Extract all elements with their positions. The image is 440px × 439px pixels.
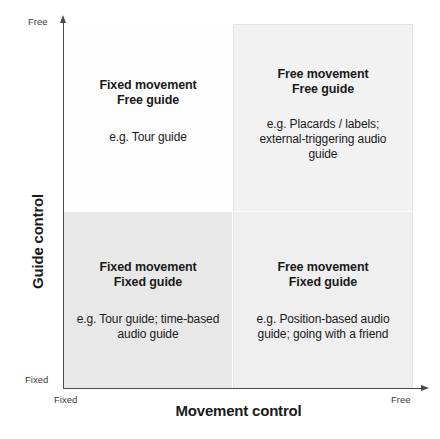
- y-axis-arrow-icon: [60, 15, 66, 23]
- quadrant-fixed-movement-fixed-guide: Fixed movement Fixed guide e.g. Tour gui…: [64, 212, 232, 388]
- quadrant-title: Free movement Free guide: [277, 67, 368, 97]
- quadrant-example: e.g. Tour guide: [109, 130, 187, 145]
- quadrant-title: Fixed movement Free guide: [99, 78, 196, 108]
- y-axis-title: Guide control: [29, 142, 46, 342]
- quadrant-matrix-figure: Fixed movement Free guide e.g. Tour guid…: [0, 0, 440, 439]
- quadrant-fixed-movement-free-guide: Fixed movement Free guide e.g. Tour guid…: [64, 24, 232, 211]
- quadrant-free-movement-free-guide: Free movement Free guide e.g. Placards /…: [233, 24, 413, 211]
- x-axis-title: Movement control: [64, 402, 413, 419]
- x-axis-line: [63, 388, 425, 389]
- y-axis-line: [63, 22, 64, 389]
- y-axis-tick-fixed: Fixed: [25, 374, 48, 385]
- quadrant-example: e.g. Placards / labels; external-trigger…: [260, 117, 387, 162]
- quadrant-example: e.g. Position-based audio guide; going w…: [257, 312, 390, 342]
- quadrant-title: Free movement Fixed guide: [277, 260, 368, 290]
- quadrant-title: Fixed movement Fixed guide: [99, 260, 196, 290]
- x-axis-arrow-icon: [421, 385, 429, 391]
- y-axis-tick-free: Free: [28, 16, 48, 27]
- quadrant-example: e.g. Tour guide; time-based audio guide: [77, 312, 220, 342]
- quadrant-free-movement-fixed-guide: Free movement Fixed guide e.g. Position-…: [233, 212, 413, 388]
